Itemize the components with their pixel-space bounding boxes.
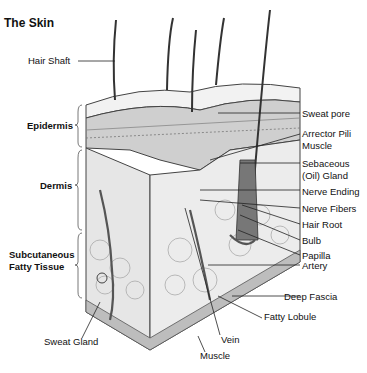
label-fatty-tissue: Fatty Tissue [9, 261, 64, 272]
label-oil-gland: (Oil) Gland [302, 170, 348, 181]
label-artery: Artery [302, 260, 327, 271]
label-sebaceous: Sebaceous [302, 158, 350, 169]
label-subcutaneous: Subcutaneous [9, 249, 74, 260]
label-sweat-pore: Sweat pore [302, 108, 350, 119]
label-hair-shaft: Hair Shaft [28, 55, 70, 66]
label-arrector-muscle: Muscle [302, 140, 332, 151]
label-deep-fascia: Deep Fascia [284, 291, 337, 302]
label-nerve-fibers: Nerve Fibers [302, 203, 356, 214]
diagram-title: The Skin [4, 16, 54, 30]
label-dermis: Dermis [40, 180, 72, 191]
label-epidermis: Epidermis [27, 120, 73, 131]
label-bulb: Bulb [302, 235, 321, 246]
label-hair-root: Hair Root [302, 219, 342, 230]
label-sweat-gland: Sweat Gland [44, 336, 98, 347]
label-arrector-pili: Arrector Pili [302, 128, 351, 139]
label-nerve-ending: Nerve Ending [302, 186, 360, 197]
label-fatty-lobule: Fatty Lobule [264, 311, 316, 322]
label-muscle: Muscle [200, 350, 230, 361]
label-vein: Vein [221, 334, 240, 345]
